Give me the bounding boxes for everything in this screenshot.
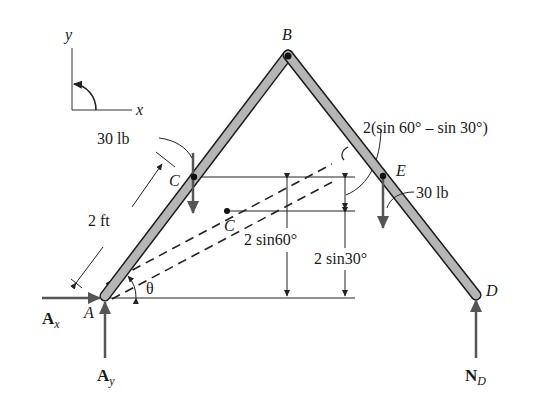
label-2sin30: 2 sin30° bbox=[314, 250, 367, 267]
reaction-Ay: Ay bbox=[97, 302, 115, 388]
label-difference: 2(sin 60° – sin 30°) bbox=[363, 119, 488, 137]
label-2ft: 2 ft bbox=[88, 212, 110, 229]
coordinate-axes: y x bbox=[63, 26, 143, 118]
label-D: D bbox=[485, 282, 498, 299]
label-B: B bbox=[282, 26, 292, 43]
reaction-ND: ND bbox=[465, 300, 486, 388]
label-ND: ND bbox=[465, 366, 486, 388]
label-Ax: Ax bbox=[42, 309, 60, 331]
load-left-label: 30 lb bbox=[97, 130, 129, 147]
centroid-C bbox=[224, 208, 230, 214]
label-A: A bbox=[83, 304, 94, 321]
free-body-diagram: y x 2 sin60° 2 sin30° 2(sin 60° – sin 30… bbox=[0, 0, 538, 411]
rotation-arrow-icon bbox=[74, 84, 96, 110]
y-axis-label: y bbox=[63, 26, 73, 44]
point-E bbox=[380, 173, 386, 179]
label-C-centroid: C bbox=[224, 217, 235, 234]
label-E: E bbox=[395, 162, 406, 179]
label-2sin60: 2 sin60° bbox=[244, 231, 297, 248]
point-C-member bbox=[191, 174, 197, 180]
label-Ay: Ay bbox=[97, 366, 115, 388]
label-C-member: C bbox=[169, 172, 180, 189]
load-right-label: 30 lb bbox=[416, 184, 448, 201]
angle-arc bbox=[128, 276, 136, 298]
dimension-2sin30: 2 sin30° bbox=[314, 179, 367, 296]
pin-B bbox=[285, 53, 292, 60]
label-theta: θ bbox=[146, 280, 154, 297]
x-axis-label: x bbox=[135, 101, 143, 118]
